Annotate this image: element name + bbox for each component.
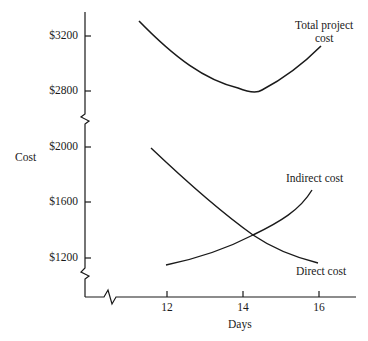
total-cost-label-line2: cost [315,32,334,44]
direct-cost-curve [151,148,318,263]
y-tick-2000: $2000 [49,140,78,152]
x-tick-14: 14 [237,301,249,313]
x-tick-16: 16 [313,301,325,313]
y-tick-3200: $3200 [49,29,78,41]
indirect-cost-label: Indirect cost [286,172,343,184]
total-cost-curve [139,21,321,92]
x-tick-12: 12 [161,301,173,313]
y-axis [81,12,89,297]
y-axis-label: Cost [15,151,36,163]
x-axis-label: Days [228,318,252,330]
direct-cost-label: Direct cost [296,265,346,277]
y-tick-2800: $2800 [49,84,78,96]
y-tick-1200: $1200 [49,251,78,263]
y-tick-1600: $1600 [49,195,78,207]
chart-canvas [0,0,368,341]
total-cost-label-line1: Total project [295,19,353,31]
cost-chart: $3200 $2800 $2000 $1600 $1200 12 14 16 C… [0,0,368,341]
